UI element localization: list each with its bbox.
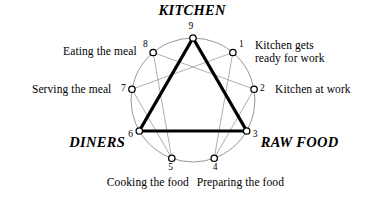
point-node-1 [230, 49, 236, 55]
point-number-1: 1 [239, 40, 244, 50]
point-label-2: Kitchen at work [275, 83, 351, 96]
point-node-3 [243, 128, 249, 134]
point-node-7 [129, 86, 135, 92]
point-node-5 [169, 155, 175, 161]
hexagram-path [132, 53, 254, 159]
point-number-9: 9 [189, 22, 194, 32]
point-number-5: 5 [168, 163, 173, 173]
point-number-7: 7 [121, 84, 126, 94]
point-number-2: 2 [260, 84, 265, 94]
enneagram-diagram-canvas: KITCHEN RAW FOOD DINERS Kitchen gets rea… [0, 0, 385, 207]
point-node-4 [211, 155, 217, 161]
point-label-5: Cooking the food [107, 176, 189, 189]
caption-kitchen: KITCHEN [159, 2, 226, 19]
caption-raw-food: RAW FOOD [261, 134, 339, 151]
point-node-2 [251, 86, 257, 92]
point-node-6 [136, 128, 142, 134]
point-label-4: Preparing the food [197, 176, 284, 189]
point-node-8 [150, 49, 156, 55]
point-label-8: Eating the meal [63, 45, 137, 58]
enneagram-circle [131, 38, 255, 162]
caption-diners: DINERS [69, 134, 125, 151]
point-number-3: 3 [253, 130, 258, 140]
point-label-1: Kitchen gets ready for work [255, 39, 325, 64]
point-label-7: Serving the meal [32, 83, 112, 96]
point-number-6: 6 [128, 130, 133, 140]
point-node-9 [190, 35, 196, 41]
point-number-8: 8 [143, 40, 148, 50]
point-number-4: 4 [213, 163, 218, 173]
